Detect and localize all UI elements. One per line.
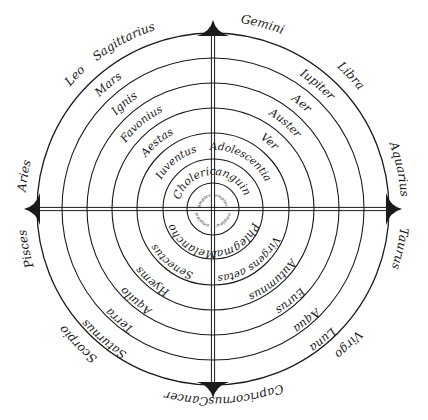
- label-zodiac-aquarius: Aquarius: [386, 139, 411, 197]
- cosmological-wheel-diagram: SagittariusLeoAriesGeminiLibraAquariusTa…: [0, 0, 428, 420]
- label-planets-mars: Mars: [91, 69, 124, 100]
- label-elements-ignis: Ignis: [107, 88, 139, 118]
- label-zodiac-pisces: Pisces: [15, 229, 37, 271]
- label-zodiac-taurus: Taurus: [389, 227, 411, 271]
- label-winds-aquilo: Aquilo: [117, 284, 154, 318]
- label-ages-senectus: Senectus: [147, 242, 194, 282]
- label-zodiac-virgo: Virgo: [332, 328, 366, 362]
- ring-circle-0: [187, 183, 239, 235]
- label-winds-eurus: Eurus: [273, 285, 308, 318]
- label-zodiac-cancer: Cancer: [162, 388, 209, 408]
- label-zodiac-libra: Libra: [334, 58, 368, 92]
- label-center-complexio: Complexio: [0, 0, 212, 208]
- label-elements-aqua: Aqua: [291, 305, 324, 336]
- label-zodiac-aries: Aries: [14, 158, 33, 193]
- label-zodiac-gemini: Gemini: [240, 12, 287, 37]
- label-planets-iupiter: Iupiter: [297, 65, 339, 104]
- wheel-svg: SagittariusLeoAriesGeminiLibraAquariusTa…: [0, 0, 428, 420]
- label-winds-auster: Auster: [266, 105, 305, 140]
- label-zodiac-leo: Leo: [61, 62, 87, 89]
- label-seasons-ver: Ver: [258, 130, 282, 153]
- label-elements-terra: Terra: [102, 305, 136, 336]
